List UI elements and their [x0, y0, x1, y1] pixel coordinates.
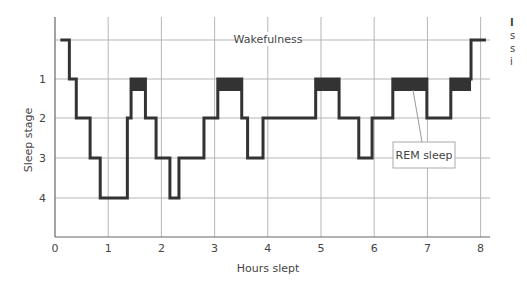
grid-lines: [55, 17, 490, 237]
x-tick-label: 1: [105, 242, 112, 255]
wakefulness-label: Wakefulness: [234, 32, 303, 46]
y-tick-label: 3: [39, 152, 46, 165]
x-tick-label: 7: [424, 242, 431, 255]
side-text-line: s: [510, 42, 515, 55]
rem-period-block: [316, 79, 339, 91]
x-tick-label: 0: [52, 242, 59, 255]
y-tick-label: 1: [39, 73, 46, 86]
rem-sleep-text: REM sleep: [396, 149, 453, 162]
y-axis-title: Sleep stage: [22, 107, 35, 172]
y-tick-label: 2: [39, 112, 46, 125]
x-tick-label: 5: [318, 242, 325, 255]
rem-sleep-callout: REM sleep: [393, 90, 455, 168]
hypnogram-chart: 0123456781234 Hours slept Sleep stage Wa…: [0, 0, 527, 285]
x-tick-label: 4: [264, 242, 271, 255]
rem-period-block: [131, 79, 145, 91]
rem-blocks: [131, 79, 471, 91]
x-axis-title: Hours slept: [237, 262, 300, 275]
x-tick-label: 8: [477, 242, 484, 255]
rem-period-block: [393, 79, 427, 91]
rem-period-block: [218, 79, 242, 91]
x-tick-label: 2: [158, 242, 165, 255]
side-text-line: s: [510, 29, 515, 42]
cropped-side-text: I s s i: [510, 16, 515, 68]
x-tick-label: 3: [211, 242, 218, 255]
x-tick-label: 6: [371, 242, 378, 255]
rem-period-block: [451, 79, 471, 91]
sleep-stage-line: [60, 40, 486, 198]
axes: [55, 17, 490, 237]
wakefulness-text: Wakefulness: [234, 33, 303, 46]
side-text-line: I: [510, 16, 515, 29]
side-text-line: i: [510, 55, 515, 68]
y-tick-label: 4: [39, 192, 46, 205]
